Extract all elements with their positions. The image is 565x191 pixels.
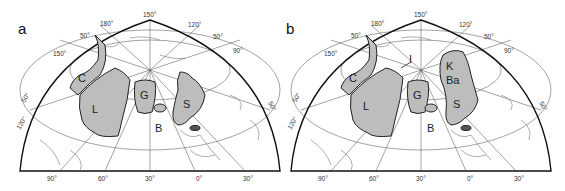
rim-tick-right: 50° [538,100,549,112]
top-tick-120: 120° [459,21,473,28]
bottom-tick-90: 90° [47,175,57,182]
region-label-L: L [92,103,98,115]
region-label-Ba: Ba [446,74,460,86]
bottom-tick-30-east: 30° [514,175,524,182]
map-panel-b: b C L G I [283,0,565,191]
top-tick-150: 150° [143,11,157,18]
bottom-tick-90: 90° [318,175,328,182]
top-tick-50-left: 50° [351,32,361,39]
top-tick-50-right: 50° [213,33,223,40]
region-label-C: C [349,72,357,84]
region-label-S: S [453,98,460,110]
rim-tick-left-lower: 120° [15,115,28,130]
bottom-tick-0: 0° [196,175,203,182]
region-label-B: B [155,122,162,134]
bottom-tick-0: 0° [467,175,474,182]
rim-tick-left-upper: 50° [291,91,302,103]
region-label-L: L [363,100,369,112]
top-tick-150-left: 150° [53,50,67,57]
top-tick-180: 180° [371,20,385,27]
island-small [154,104,166,112]
polar-map-a: C L G S B 150° 180° 120° 50° 50° 150° 90… [0,0,282,191]
craton-small-east [190,126,200,131]
region-label-B: B [427,122,434,134]
top-tick-150-left: 150° [324,50,338,57]
polar-map-b: C L G I K Ba S B 150° 180° 120° 50° 50° … [283,0,565,191]
map-panel-a: a C [0,0,282,191]
region-label-S: S [183,98,190,110]
bottom-tick-30: 30° [416,175,426,182]
top-tick-50-right: 50° [484,33,494,40]
region-label-G: G [140,89,149,101]
rim-tick-left-upper: 50° [20,91,31,103]
top-tick-90: 90° [504,47,514,54]
region-label-G: G [413,89,422,101]
region-label-K: K [446,60,454,72]
top-tick-150: 150° [414,11,428,18]
rim-tick-right: 50° [267,100,278,112]
bottom-tick-60: 60° [369,175,379,182]
top-tick-120: 120° [188,21,202,28]
craton-small-east [461,126,471,131]
region-label-I: I [409,53,412,65]
bottom-tick-60: 60° [98,175,108,182]
bottom-tick-30: 30° [145,175,155,182]
region-label-C: C [78,72,86,84]
island-small [425,104,437,112]
bottom-tick-30-east: 30° [243,175,253,182]
top-tick-50-left: 50° [80,32,90,39]
top-tick-90: 90° [233,47,243,54]
top-tick-180: 180° [100,20,114,27]
rim-tick-left-lower: 120° [286,115,299,130]
